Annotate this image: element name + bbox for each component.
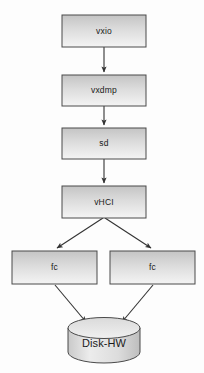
edge-fc-left-to-disk [55,285,86,322]
node-sd-label: sd [99,138,108,148]
node-vxdmp-label: vxdmp [91,85,117,95]
node-vhci-label: vHCI [94,197,114,207]
node-disk-hw[interactable]: Disk-HW [68,318,140,363]
node-fc-left-label: fc [51,262,59,272]
diagram-svg: vxio vxdmp sd vHCI fc fc [0,0,204,373]
node-disk-hw-label: Disk-HW [82,337,127,349]
edge-vhci-to-fc-right [105,218,151,248]
disk-cylinder-top [68,318,140,339]
edge-fc-right-to-disk [122,285,153,322]
node-fc-left[interactable]: fc [12,251,97,284]
diagram-canvas: vxio vxdmp sd vHCI fc fc [0,0,204,373]
node-vhci[interactable]: vHCI [62,186,146,218]
node-fc-right-label: fc [149,262,157,272]
node-sd[interactable]: sd [62,128,146,159]
edge-vhci-to-fc-left [57,218,103,248]
node-vxio[interactable]: vxio [62,15,146,47]
node-vxio-label: vxio [96,26,112,36]
node-fc-right[interactable]: fc [110,251,195,284]
node-vxdmp[interactable]: vxdmp [62,75,146,106]
